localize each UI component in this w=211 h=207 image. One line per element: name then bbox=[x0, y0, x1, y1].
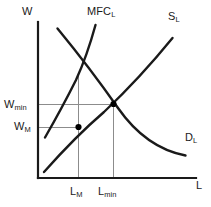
x-tick-label-lm: LM bbox=[70, 186, 82, 197]
y-tick-label-wmin-sub: min bbox=[14, 103, 26, 112]
y-tick-label-wmin-base: W bbox=[4, 98, 14, 110]
y-tick-label-wm-base: W bbox=[14, 120, 24, 132]
curve-label-demand-base: D bbox=[185, 131, 193, 143]
minimum-wage-point bbox=[110, 101, 116, 107]
curve-label-mfc-sub: L bbox=[111, 10, 115, 19]
x-axis-title: L bbox=[196, 180, 202, 191]
curve-label-demand-sub: L bbox=[193, 136, 197, 145]
x-tick-label-lmin-sub: min bbox=[104, 190, 116, 199]
curve-label-mfc-base: MFC bbox=[87, 5, 111, 17]
plot-area bbox=[0, 0, 211, 207]
monopsony-wage-point bbox=[75, 124, 81, 130]
curve-label-mfc: MFCL bbox=[87, 6, 115, 17]
x-tick-label-lm-sub: M bbox=[76, 190, 82, 199]
y-tick-label-wm: WM bbox=[14, 121, 31, 132]
y-tick-label-wm-sub: M bbox=[24, 125, 30, 134]
labour-market-diagram: W L MFCL SL DL Wmin WM LM Lmin bbox=[0, 0, 211, 207]
x-tick-label-lmin: Lmin bbox=[98, 186, 116, 197]
curve-label-supply: SL bbox=[168, 11, 180, 22]
y-tick-label-wmin: Wmin bbox=[4, 99, 27, 110]
curve-label-demand: DL bbox=[185, 132, 197, 143]
mfc-curve bbox=[45, 25, 96, 138]
y-axis-title: W bbox=[22, 6, 32, 17]
curve-label-supply-sub: L bbox=[175, 15, 179, 24]
